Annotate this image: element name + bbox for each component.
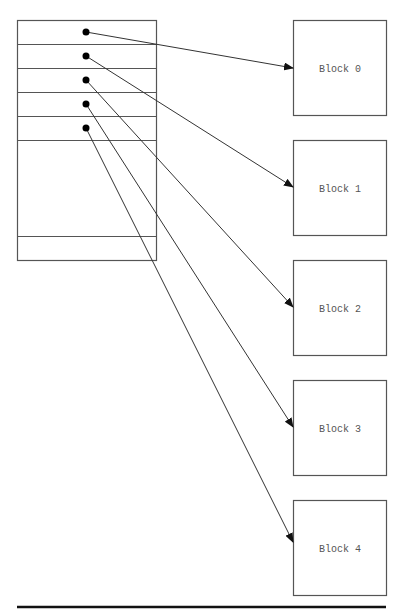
pointer-2 [83,77,294,308]
pointer-arrows [83,29,294,543]
pointer-arrow [86,128,293,542]
pointer-dot-icon [83,101,90,108]
block-label: Block 1 [319,184,361,195]
data-block-3: Block 3 [294,381,387,476]
block-label: Block 3 [319,424,361,435]
pointer-arrow [86,104,293,427]
data-block-4: Block 4 [294,501,387,596]
pointer-0 [83,29,294,69]
data-blocks: Block 0Block 1Block 2Block 3Block 4 [294,21,387,596]
clipped-caption [17,611,386,615]
data-block-2: Block 2 [294,261,387,356]
pointer-arrow [86,32,293,68]
pointer-arrow [86,56,293,187]
pointer-3 [83,101,294,428]
block-label: Block 4 [319,544,361,555]
pointer-arrow [86,80,293,307]
block-label: Block 2 [319,304,361,315]
block-label: Block 0 [319,64,361,75]
data-block-0: Block 0 [294,21,387,116]
pointer-dot-icon [83,125,90,132]
data-block-1: Block 1 [294,141,387,236]
pointer-dot-icon [83,29,90,36]
pointer-4 [83,125,294,543]
pointer-1 [83,53,294,188]
pointer-dot-icon [83,53,90,60]
indexed-allocation-diagram: Block 0Block 1Block 2Block 3Block 4 [0,0,401,615]
pointer-dot-icon [83,77,90,84]
